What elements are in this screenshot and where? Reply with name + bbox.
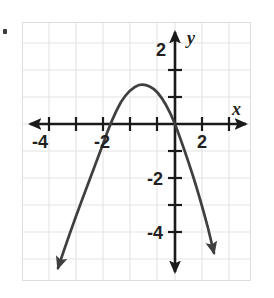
- x-tick-label-neg2: -2: [94, 133, 110, 151]
- y-tick-label-neg4: -4: [147, 224, 163, 242]
- y-tick-label-neg2: -2: [147, 170, 163, 188]
- x-tick-label-pos2: 2: [197, 133, 207, 151]
- x-axis: [30, 117, 246, 131]
- x-tick-label-neg4: -4: [32, 133, 48, 151]
- y-axis-letter-label: y: [187, 29, 195, 47]
- x-axis-letter-label: x: [232, 100, 241, 118]
- figure-root: -4 -2 2 2 -2 -4 y x: [0, 0, 274, 298]
- y-tick-label-pos2: 2: [156, 41, 166, 59]
- parabola-curve: [58, 85, 214, 268]
- grid-lines: [23, 23, 250, 280]
- y-axis: [168, 32, 182, 272]
